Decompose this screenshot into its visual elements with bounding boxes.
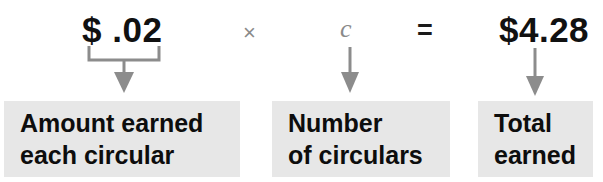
label-box-total-earned: Total earned bbox=[478, 101, 593, 177]
diagram-canvas: $ .02 × c = $4.28 Amount earned each cir… bbox=[0, 0, 603, 182]
equation-product-total: $4.28 bbox=[499, 12, 589, 47]
label-total-line-1: Total bbox=[494, 107, 593, 139]
label-box-amount-earned: Amount earned each circular bbox=[4, 101, 240, 177]
label-number-line-2: of circulars bbox=[288, 139, 450, 171]
equation-variable-c: c bbox=[340, 16, 352, 42]
label-number-line-1: Number bbox=[288, 107, 450, 139]
multiplication-operator-icon: × bbox=[243, 22, 256, 44]
label-amount-line-2: each circular bbox=[20, 139, 240, 171]
label-box-number-of-circulars: Number of circulars bbox=[272, 101, 450, 177]
arrow-to-number bbox=[341, 47, 359, 93]
label-total-line-2: earned bbox=[494, 139, 593, 171]
arrow-to-total bbox=[526, 48, 544, 96]
equation-factor-price: $ .02 bbox=[82, 12, 162, 47]
brace-to-amount-arrow bbox=[89, 46, 159, 93]
label-amount-line-1: Amount earned bbox=[20, 107, 240, 139]
equals-operator-icon: = bbox=[417, 17, 433, 44]
